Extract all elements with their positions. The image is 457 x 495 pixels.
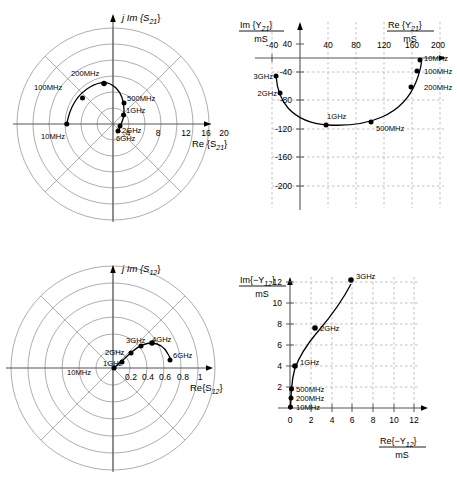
s21-point-500MHz [122, 101, 127, 106]
s21-point-100MHz [80, 96, 85, 101]
y12-label-2GHz: 2GHz [320, 324, 340, 333]
s21-label-1GHz: 1GHz [126, 106, 146, 115]
y21-ytick--40: -40 [280, 67, 293, 77]
y21-xticks: -40 40 80 120 160 200 [266, 40, 446, 50]
y12-label-200MHz: 200MHz [296, 394, 324, 403]
panel-y21-cartesian: -40 40 80 120 160 200 40 -40 -80 -120 -1… [230, 0, 457, 235]
s12-tick-0.2: 0.2 [125, 372, 137, 382]
s12-im-axis-label: j Im {S12} [120, 263, 160, 276]
s12-radial-ticks: 0.2 0.4 0.6 0.8 1 [125, 372, 203, 382]
y12-xticks: 0 2 4 6 8 10 12 [288, 415, 419, 425]
y12-re-axis-unit: mS [395, 450, 409, 460]
figure-root: 4 8 12 16 20 10MHz 100MHz 200MHz 500MHz … [0, 0, 457, 495]
y21-point-200MHz [409, 85, 414, 90]
y12-label-10MHz: 10MHz [296, 403, 320, 412]
y21-ytick-40: 40 [283, 39, 293, 49]
y12-re-axis-label: Re{−Y12} [380, 436, 417, 448]
s21-tick-8: 8 [156, 128, 161, 138]
y21-xtick-80: 80 [351, 40, 361, 50]
y12-point-3GHz [348, 277, 354, 283]
y21-label-500MHz: 500MHz [376, 124, 404, 133]
s12-tick-0.6: 0.6 [159, 372, 171, 382]
y21-yticks: 40 -40 -80 -120 -160 -200 [275, 39, 292, 191]
panel-y12-cartesian: 0 2 4 6 8 10 12 2 4 6 8 10 12 10MHz 200M… [230, 255, 457, 495]
y21-xtick-200: 200 [431, 40, 445, 50]
s21-curve-group [64, 81, 126, 134]
s12-tick-0.4: 0.4 [142, 372, 154, 382]
s21-tick-20: 20 [219, 128, 229, 138]
y21-point-100MHz [415, 69, 420, 74]
s12-label-4GHz: 4GHz [152, 335, 172, 344]
y21-label-1GHz: 1GHz [327, 112, 347, 121]
s21-polar-axes [13, 14, 211, 222]
y12-xtick-8: 8 [371, 415, 376, 425]
s21-point-200MHz [101, 81, 107, 87]
y21-point-2GHz [278, 91, 283, 96]
s12-re-axis-label: Re{S12} [190, 382, 223, 395]
y12-ytick-8: 8 [277, 319, 282, 329]
s21-re-axis-label: Re {S21} [192, 138, 227, 151]
y12-im-axis-unit: mS [255, 289, 269, 299]
y12-ytick-6: 6 [277, 340, 282, 350]
s21-tick-12: 12 [181, 128, 191, 138]
y12-point-labels: 10MHz 200MHz 500MHz 1GHz 2GHz 3GHz [296, 272, 376, 412]
y21-label-100MHz: 100MHz [424, 67, 452, 76]
s21-im-axis-label: j Im {S21} [120, 12, 160, 25]
y21-label-200MHz: 200MHz [424, 83, 452, 92]
s12-label-2GHz: 2GHz [105, 348, 125, 357]
y21-cartesian-svg: -40 40 80 120 160 200 40 -40 -80 -120 -1… [230, 0, 457, 235]
y12-label-3GHz: 3GHz [356, 272, 376, 281]
s21-polar-svg: 4 8 12 16 20 10MHz 100MHz 200MHz 500MHz … [0, 0, 230, 235]
y21-ytick--160: -160 [275, 152, 292, 162]
y21-label-10MHz: 10MHz [424, 54, 448, 63]
s21-label-100MHz: 100MHz [34, 83, 62, 92]
y12-point-1GHz [292, 363, 298, 369]
panel-s12-polar: 0.2 0.4 0.6 0.8 1 10MHz 1GHz 2GHz 3GHz 4… [0, 255, 230, 495]
y12-point-500MHz [289, 387, 294, 392]
y21-re-axis-unit: mS [403, 34, 417, 44]
y21-label-2GHz: 2GHz [258, 89, 278, 98]
s12-polar-axes [6, 265, 213, 472]
y12-point-2GHz [312, 325, 318, 331]
s21-tick-16: 16 [201, 128, 211, 138]
y21-point-3GHz [274, 74, 279, 79]
s12-tick-1: 1 [198, 372, 203, 382]
panel-s21-polar: 4 8 12 16 20 10MHz 100MHz 200MHz 500MHz … [0, 0, 230, 235]
y21-re-axis-label: Re {Y21} [388, 20, 422, 32]
s21-label-500MHz: 500MHz [127, 94, 155, 103]
y12-ytick-2: 2 [277, 382, 282, 392]
y12-point-10MHz [288, 405, 293, 410]
y12-ytick-4: 4 [277, 361, 282, 371]
y12-xtick-6: 6 [350, 415, 355, 425]
s21-label-10MHz: 10MHz [41, 132, 65, 141]
s21-point-6GHz [116, 129, 121, 134]
y12-point-200MHz [289, 396, 294, 401]
s12-label-10MHz: 10MHz [67, 368, 91, 377]
y21-curve-group [274, 58, 423, 128]
y21-ytick--80: -80 [280, 95, 293, 105]
y12-cartesian-svg: 0 2 4 6 8 10 12 2 4 6 8 10 12 10MHz 200M… [230, 255, 457, 495]
s12-label-6GHz: 6GHz [173, 351, 193, 360]
y21-im-axis-unit: mS [254, 34, 268, 44]
y21-xtick-40: 40 [323, 40, 333, 50]
s21-label-200MHz: 200MHz [71, 69, 99, 78]
y21-ytick--200: -200 [275, 181, 292, 191]
y21-trace [276, 62, 422, 125]
y21-xtick-120: 120 [377, 40, 391, 50]
y12-yticks: 2 4 6 8 10 12 [273, 277, 283, 392]
y12-xtick-12: 12 [409, 415, 419, 425]
y12-xtick-4: 4 [330, 415, 335, 425]
y21-im-axis-label: Im {Y21} [240, 20, 272, 32]
s21-label-6GHz: 6GHz [116, 134, 136, 143]
y21-label-3GHz: 3GHz [254, 72, 274, 81]
s12-label-1GHz: 1GHz [103, 359, 123, 368]
s12-point-6GHz [168, 358, 173, 363]
y12-xtick-2: 2 [309, 415, 314, 425]
y21-ytick--120: -120 [275, 124, 292, 134]
y12-xtick-0: 0 [288, 415, 293, 425]
s12-point-2GHz [129, 351, 134, 356]
y21-point-labels: 3GHz 2GHz 1GHz 500MHz 200MHz 100MHz 10MH… [254, 54, 453, 133]
y21-point-500MHz [369, 120, 374, 125]
s21-point-10MHz [64, 122, 69, 127]
s12-tick-0.8: 0.8 [177, 372, 189, 382]
